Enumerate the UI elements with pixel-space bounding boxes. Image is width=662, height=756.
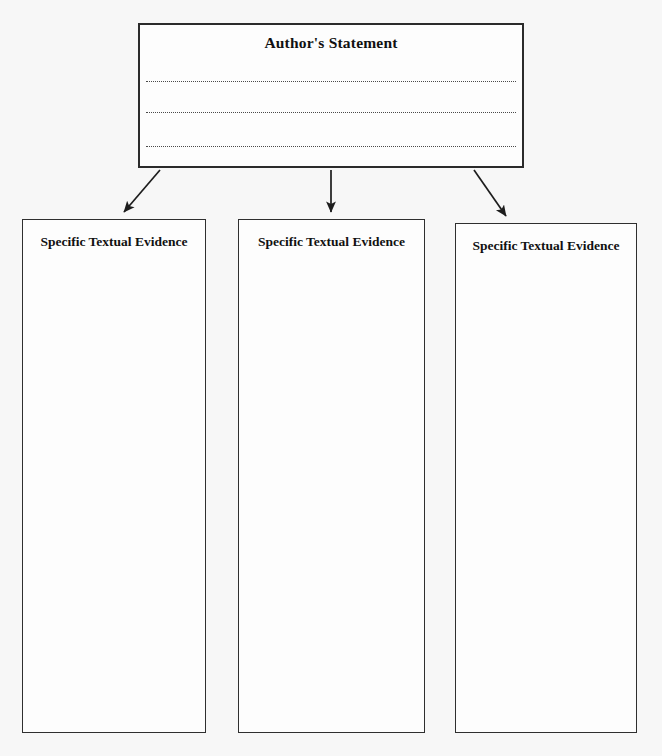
write-line-3[interactable] (146, 146, 516, 147)
authors-statement-write-lines (146, 75, 516, 160)
arrow-to-evidence-3 (474, 170, 506, 216)
graphic-organizer: Author's Statement Specific Textual Evid… (0, 0, 662, 756)
evidence-box-3-label: Specific Textual Evidence (464, 236, 628, 255)
evidence-box-1[interactable]: Specific Textual Evidence (22, 219, 206, 733)
write-line-2[interactable] (146, 112, 516, 113)
evidence-box-2[interactable]: Specific Textual Evidence (238, 219, 425, 733)
authors-statement-box[interactable]: Author's Statement (138, 23, 524, 168)
write-line-1[interactable] (146, 81, 516, 82)
evidence-box-1-label: Specific Textual Evidence (31, 232, 197, 251)
authors-statement-title: Author's Statement (140, 34, 522, 52)
arrow-to-evidence-1 (124, 170, 160, 212)
evidence-box-2-label: Specific Textual Evidence (247, 232, 416, 251)
evidence-box-3[interactable]: Specific Textual Evidence (455, 223, 637, 733)
